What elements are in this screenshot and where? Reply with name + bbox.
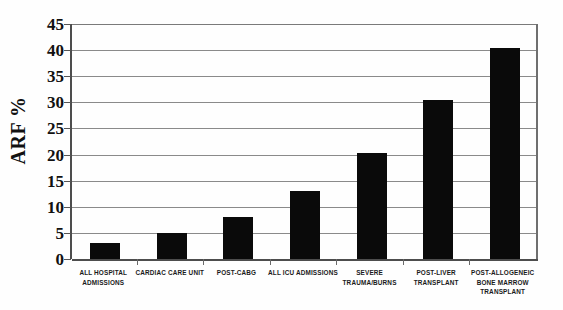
x-tick-mark — [137, 259, 138, 265]
bar — [423, 100, 453, 259]
y-tick-label-20: 20 — [47, 146, 64, 163]
y-tick-mark-0 — [64, 259, 71, 260]
y-axis-title-text: ARF % — [8, 96, 31, 164]
x-category-label: POST-ALLOGENEICBONE MARROWTRANSPLANT — [462, 268, 543, 297]
x-tick-mark — [469, 259, 470, 265]
y-tick-mark-30 — [64, 102, 71, 103]
y-tick-label-35: 35 — [47, 68, 64, 85]
y-axis-tick-labels: 454035302520151050 — [36, 24, 64, 259]
y-tick-label-40: 40 — [47, 42, 64, 59]
y-tick-label-15: 15 — [47, 172, 64, 189]
bar — [223, 217, 253, 259]
x-tick-mark — [203, 259, 204, 265]
x-category-label-line: TRANSPLANT — [462, 287, 543, 297]
bar — [490, 48, 520, 260]
x-tick-mark — [403, 259, 404, 265]
y-tick-label-5: 5 — [56, 224, 65, 241]
x-category-label-line: BONE MARROW — [462, 278, 543, 288]
y-tick-mark-10 — [64, 207, 71, 208]
x-tick-mark — [270, 259, 271, 265]
gridline-0 — [72, 259, 538, 261]
y-tick-mark-35 — [64, 76, 71, 77]
y-tick-label-45: 45 — [47, 16, 64, 33]
y-tick-label-30: 30 — [47, 94, 64, 111]
y-tick-label-25: 25 — [47, 120, 64, 137]
y-tick-label-0: 0 — [56, 251, 65, 268]
plot-area — [70, 24, 536, 259]
y-tick-mark-5 — [64, 233, 71, 234]
bars-container — [72, 24, 538, 259]
x-category-label-line: ADMISSIONS — [63, 278, 144, 288]
y-tick-mark-40 — [64, 50, 71, 51]
bar-chart-figure: ARF % 454035302520151050 ALL HOSPITALADM… — [0, 0, 563, 310]
bar — [90, 243, 120, 259]
y-tick-mark-20 — [64, 155, 71, 156]
bar — [357, 153, 387, 259]
x-tick-mark — [336, 259, 337, 265]
y-tick-mark-15 — [64, 181, 71, 182]
x-axis-category-labels: ALL HOSPITALADMISSIONSCARDIAC CARE UNITP… — [70, 268, 536, 310]
x-category-label-line: POST-ALLOGENEIC — [462, 268, 543, 278]
y-tick-mark-25 — [64, 128, 71, 129]
bar — [290, 191, 320, 259]
y-tick-label-10: 10 — [47, 198, 64, 215]
bar — [157, 233, 187, 259]
y-axis-title: ARF % — [0, 0, 38, 260]
y-tick-mark-45 — [64, 24, 71, 25]
